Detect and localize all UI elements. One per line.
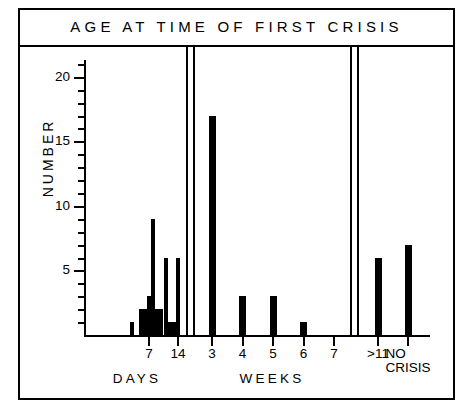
- xtick-weeks-4-label: 4: [239, 347, 247, 361]
- group-label-weeks: WEEKS: [240, 371, 305, 387]
- xtick-days-7-label: 7: [145, 347, 153, 361]
- xtick-weeks-3-tick: [211, 337, 213, 346]
- xtick-weeks-6-tick: [303, 337, 305, 346]
- xtick-no-crisis-tick: [407, 337, 409, 346]
- group-label-days: DAYS: [113, 371, 162, 387]
- xtick-weeks-7-tick: [333, 337, 335, 346]
- xtick-weeks-4-tick: [242, 337, 244, 346]
- xtick-gt11-tick: [377, 337, 379, 346]
- figure-chart-age-at-first-crisis: AGE AT TIME OF FIRST CRISIS NUMBER 51015…: [0, 0, 472, 409]
- xtick-days-14-tick: [177, 337, 179, 346]
- xtick-weeks-7-label: 7: [330, 347, 338, 361]
- xtick-weeks-5-label: 5: [269, 347, 277, 361]
- bar-nocrisis-gt11: [375, 258, 382, 335]
- bar-weeks-5: [270, 296, 277, 335]
- xtick-weeks-5-tick: [272, 337, 274, 346]
- bar-series-group: [0, 0, 472, 335]
- bar-weeks-6: [300, 322, 307, 335]
- xtick-days-14-label: 14: [170, 347, 185, 361]
- xtick-weeks-6-label: 6: [300, 347, 308, 361]
- bar-days-14: [176, 258, 180, 335]
- xtick-weeks-3-label: 3: [208, 347, 216, 361]
- xtick-no-crisis-label: NOCRISIS: [385, 347, 430, 374]
- bar-days-3: [130, 322, 134, 335]
- bar-nocrisis-no-crisis: [405, 245, 412, 335]
- bar-weeks-3: [209, 116, 216, 335]
- xtick-days-7-tick: [148, 337, 150, 346]
- bar-weeks-4: [239, 296, 246, 335]
